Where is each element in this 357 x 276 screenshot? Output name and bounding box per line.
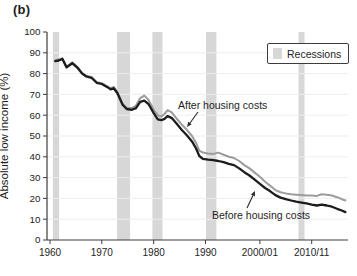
y-tick-label: 10 — [30, 214, 41, 225]
x-tick-label: 1990 — [194, 247, 217, 258]
y-tick-label: 70 — [30, 89, 41, 100]
y-tick-label: 20 — [30, 193, 41, 204]
y-tick-label: 30 — [30, 172, 41, 183]
annotation-before-housing-costs: Before housing costs — [212, 209, 310, 221]
figure-panel-b: (b) 010203040506070809010019601970198019… — [0, 0, 357, 276]
annotation-after-housing-costs: After housing costs — [178, 99, 267, 111]
legend-label: Recessions — [287, 48, 341, 60]
y-tick-label: 40 — [30, 151, 41, 162]
annotation-arrow-line — [247, 196, 253, 209]
y-tick-label: 0 — [35, 234, 41, 245]
x-tick-label: 2010/11 — [294, 247, 330, 258]
x-tick-label: 1970 — [91, 247, 114, 258]
y-tick-label: 80 — [30, 68, 41, 79]
y-tick-label: 90 — [30, 47, 41, 58]
x-tick-labels: 19601970198019902000/012010/11 — [39, 247, 330, 258]
x-tick-label: 1980 — [143, 247, 166, 258]
y-tick-label: 50 — [30, 130, 41, 141]
x-tick-label: 1960 — [39, 247, 62, 258]
y-axis-title: Absolute low income (%) — [0, 32, 10, 240]
annotation-arrow-line — [190, 112, 198, 123]
y-tick-label: 60 — [30, 110, 41, 121]
recession-swatch-icon — [273, 48, 282, 59]
x-tick-label: 2000/01 — [242, 247, 279, 258]
y-tick-labels: 0102030405060708090100 — [24, 26, 41, 245]
legend-box: Recessions — [267, 43, 349, 64]
annotation-arrows — [187, 112, 255, 208]
chart-svg: 0102030405060708090100196019701980199020… — [0, 0, 357, 276]
y-tick-label: 100 — [24, 26, 41, 37]
